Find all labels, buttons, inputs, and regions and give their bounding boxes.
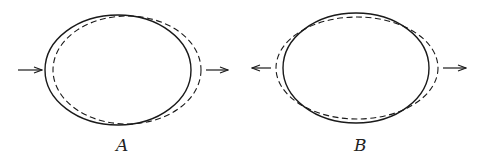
figure-a-label: A — [116, 137, 128, 154]
diagram-svg — [0, 0, 480, 162]
figure-b — [252, 13, 466, 123]
diagram-canvas: A B — [0, 0, 480, 162]
figure-a-dashed-ellipse — [53, 16, 201, 124]
figure-a-solid-ellipse — [45, 15, 191, 125]
figure-a — [18, 15, 228, 125]
figure-b-label: B — [354, 137, 367, 154]
